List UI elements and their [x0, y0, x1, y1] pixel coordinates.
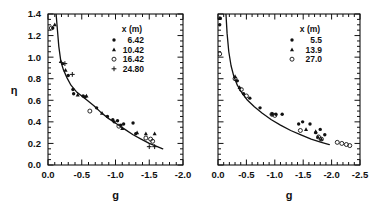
marker-dot: [319, 128, 322, 131]
chart-panel-right: 0.0-0.5-1.0-1.5-2.0-2.5gx (m)5.513.927.0: [0, 0, 380, 207]
marker-dot: [301, 120, 304, 123]
right-panel-series-13-9: [218, 16, 324, 141]
right-panel-legend-label: 5.5: [310, 35, 322, 45]
right-panel-xtick-label: -0.5: [238, 169, 255, 180]
right-panel-legend: x (m)5.513.927.0: [290, 24, 322, 64]
right-panel-series-27-0: [218, 52, 352, 148]
marker-triangle: [304, 127, 308, 131]
marker-dot: [280, 113, 283, 116]
right-panel-xtick-label: -1.0: [267, 169, 283, 180]
right-panel-legend-label: 27.0: [305, 54, 322, 64]
marker-dot: [297, 122, 300, 125]
marker-open-circle: [290, 57, 294, 61]
right-panel-svg: 0.0-0.5-1.0-1.5-2.0-2.5gx (m)5.513.927.0: [0, 0, 380, 207]
marker-dot: [290, 38, 293, 41]
marker-dot: [308, 122, 311, 125]
marker-open-circle: [340, 141, 344, 145]
marker-open-circle: [335, 140, 339, 144]
marker-dot: [323, 133, 326, 136]
caption-ghost: [0, 199, 380, 207]
right-panel-xtick-label: -2.5: [352, 169, 369, 180]
right-panel-xtick-label: -2.0: [323, 169, 339, 180]
right-panel-legend-title: x (m): [300, 24, 320, 34]
right-panel-xtick-label: -1.5: [295, 169, 312, 180]
marker-triangle: [314, 129, 318, 133]
figure-container: 0.0-0.5-1.0-1.5-2.00.00.20.40.60.81.01.2…: [0, 0, 380, 207]
right-panel-xtick-label: 0.0: [211, 169, 224, 180]
right-panel-legend-label: 13.9: [305, 45, 322, 55]
marker-open-circle: [298, 128, 302, 132]
marker-triangle: [290, 47, 294, 51]
marker-dot: [258, 106, 261, 109]
marker-dot: [218, 23, 221, 26]
